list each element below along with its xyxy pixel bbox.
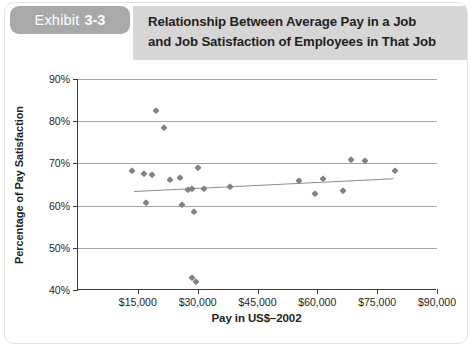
- data-point: [226, 183, 234, 191]
- x-axis-tick: [377, 289, 378, 294]
- x-axis-tick-label: $75,000: [358, 296, 396, 308]
- x-axis-tick: [317, 289, 318, 294]
- data-point: [160, 124, 168, 132]
- data-point: [312, 190, 320, 198]
- y-axis-title-label: Percentage of Pay Satisfaction: [13, 106, 25, 264]
- data-point: [391, 167, 399, 175]
- x-axis-tick: [437, 289, 438, 294]
- data-point: [152, 107, 160, 115]
- data-point: [166, 176, 174, 184]
- title-line-1: Relationship Between Average Pay in a Jo…: [148, 12, 466, 32]
- y-axis-tick-label: 60%: [49, 200, 70, 212]
- page-title: Relationship Between Average Pay in a Jo…: [148, 12, 466, 52]
- y-axis-tick: [73, 121, 78, 122]
- x-axis-tick-label: $90,000: [418, 296, 456, 308]
- y-axis-tick: [73, 163, 78, 164]
- x-axis-tick-label: $30,000: [179, 296, 217, 308]
- scatter-chart: Percentage of Pay Satisfaction 40%50%60%…: [5, 60, 468, 344]
- data-point: [194, 164, 202, 172]
- gridline-y: [78, 248, 437, 249]
- y-axis-tick: [73, 79, 78, 80]
- exhibit-figure: Relationship Between Average Pay in a Jo…: [4, 2, 468, 344]
- data-point: [339, 187, 347, 195]
- x-axis-title: Pay in US$–2002: [77, 312, 436, 324]
- y-axis-tick: [73, 248, 78, 249]
- y-axis-tick-label: 80%: [49, 115, 70, 127]
- y-axis-tick-label: 90%: [49, 73, 70, 85]
- x-axis-tick: [138, 289, 139, 294]
- data-point: [128, 167, 136, 175]
- x-axis-tick: [198, 289, 199, 294]
- gridline-y: [78, 121, 437, 122]
- y-axis-tick: [73, 290, 78, 291]
- data-point: [200, 185, 208, 193]
- plot-area: 40%50%60%70%80%90%$15,000$30,000$45,000$…: [77, 79, 436, 290]
- title-line-2: and Job Satisfaction of Employees in Tha…: [148, 32, 466, 52]
- data-point: [190, 208, 198, 216]
- gridline-y: [78, 206, 437, 207]
- gridline-y: [78, 79, 437, 80]
- data-point: [148, 171, 156, 179]
- exhibit-badge: Exhibit 3-3: [10, 6, 130, 34]
- title-band: Relationship Between Average Pay in a Jo…: [133, 6, 468, 60]
- x-axis-tick-label: $60,000: [298, 296, 336, 308]
- x-axis-tick-label: $15,000: [119, 296, 157, 308]
- data-point: [178, 201, 186, 209]
- data-point: [176, 174, 184, 182]
- y-axis-title: Percentage of Pay Satisfaction: [11, 79, 27, 290]
- x-axis-tick: [258, 289, 259, 294]
- exhibit-label: Exhibit: [35, 12, 80, 28]
- exhibit-number: 3-3: [84, 12, 105, 28]
- data-point: [140, 170, 148, 178]
- y-axis-tick-label: 70%: [49, 157, 70, 169]
- gridline-y: [78, 163, 437, 164]
- y-axis-tick-label: 50%: [49, 242, 70, 254]
- x-axis-tick-label: $45,000: [239, 296, 277, 308]
- y-axis-tick-label: 40%: [49, 284, 70, 296]
- exhibit-header: Relationship Between Average Pay in a Jo…: [5, 3, 468, 60]
- y-axis-tick: [73, 206, 78, 207]
